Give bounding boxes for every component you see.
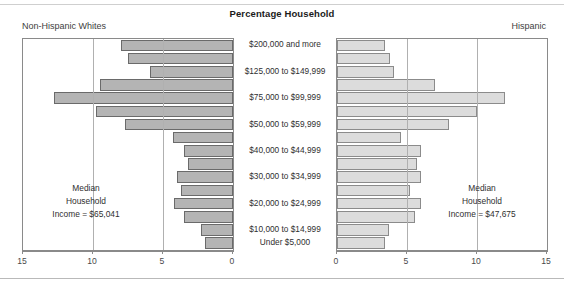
category-label: $125,000 to $149,999 — [234, 66, 336, 76]
bar-row — [337, 92, 547, 105]
gridline-5 — [163, 39, 164, 250]
right-median-line-2: Household — [430, 195, 534, 208]
bar-left-13[interactable] — [184, 211, 233, 223]
bar-row — [337, 118, 547, 131]
bar-left-5[interactable] — [96, 106, 233, 118]
category-label: $20,000 to $24,999 — [234, 198, 336, 208]
bar-row — [23, 65, 233, 78]
right-median-annotation: Median Household Income = $47,675 — [430, 182, 534, 221]
category-label: $50,000 to $59,999 — [234, 119, 336, 129]
right-axis-line — [336, 251, 548, 252]
axis-tick-label: 5 — [160, 256, 165, 266]
bar-row — [337, 52, 547, 65]
axis-tick — [162, 251, 163, 254]
axis-tick-label: 15 — [541, 256, 551, 266]
bar-right-14[interactable] — [337, 224, 389, 236]
left-median-line-3: Income = $65,041 — [38, 208, 134, 221]
bar-row — [23, 105, 233, 118]
bar-row — [337, 145, 547, 158]
bar-left-14[interactable] — [201, 224, 233, 236]
axis-tick — [336, 251, 337, 254]
axis-tick-label: 0 — [230, 256, 235, 266]
bar-row — [337, 224, 547, 237]
bar-left-3[interactable] — [100, 79, 233, 91]
left-median-line-2: Household — [38, 195, 134, 208]
bar-left-15[interactable] — [205, 237, 233, 249]
left-median-line-1: Median — [38, 182, 134, 195]
axis-tick-label: 10 — [471, 256, 481, 266]
bar-row — [23, 145, 233, 158]
bar-right-9[interactable] — [337, 158, 417, 170]
chart-page: Percentage Household Non-Hispanic Whites… — [0, 0, 564, 286]
axis-tick — [546, 251, 547, 254]
bar-left-7[interactable] — [173, 132, 233, 144]
axis-tick — [476, 251, 477, 254]
axis-tick-label: 0 — [334, 256, 339, 266]
bar-right-8[interactable] — [337, 145, 421, 157]
bar-row — [23, 158, 233, 171]
bar-row — [23, 52, 233, 65]
bar-row — [23, 118, 233, 131]
bar-left-8[interactable] — [184, 145, 233, 157]
category-label: $10,000 to $14,999 — [234, 224, 336, 234]
axis-tick — [232, 251, 233, 254]
bar-row — [23, 131, 233, 144]
bar-left-11[interactable] — [181, 185, 233, 197]
gridline-5 — [407, 39, 408, 250]
axis-tick-label: 15 — [17, 256, 27, 266]
right-x-axis: 051015 — [336, 251, 548, 275]
axis-tick — [22, 251, 23, 254]
category-label: Under $5,000 — [234, 237, 336, 247]
page-rule-top — [0, 4, 564, 5]
category-label: $30,000 to $34,999 — [234, 171, 336, 181]
page-title: Percentage Household — [0, 8, 564, 19]
axis-tick-label: 5 — [404, 256, 409, 266]
bar-left-10[interactable] — [177, 171, 233, 183]
bar-row — [337, 158, 547, 171]
bar-row — [23, 79, 233, 92]
page-rule-bottom — [0, 278, 564, 279]
axis-tick — [92, 251, 93, 254]
bar-row — [337, 65, 547, 78]
axis-tick-label: 10 — [87, 256, 97, 266]
bar-left-0[interactable] — [121, 40, 233, 52]
bar-left-12[interactable] — [174, 198, 233, 210]
bar-row — [337, 237, 547, 250]
axis-tick — [406, 251, 407, 254]
bar-right-3[interactable] — [337, 79, 435, 91]
bar-left-9[interactable] — [188, 158, 233, 170]
right-median-line-1: Median — [430, 182, 534, 195]
bar-row — [337, 79, 547, 92]
left-axis-line — [22, 251, 234, 252]
bar-row — [23, 92, 233, 105]
bar-left-4[interactable] — [54, 92, 233, 104]
bar-right-1[interactable] — [337, 53, 390, 65]
bar-right-2[interactable] — [337, 66, 394, 78]
category-label: $40,000 to $44,999 — [234, 145, 336, 155]
bar-row — [337, 131, 547, 144]
category-label: $200,000 and more — [234, 39, 336, 49]
bar-left-6[interactable] — [125, 119, 233, 131]
left-group-label: Non-Hispanic Whites — [22, 21, 106, 31]
bar-row — [23, 237, 233, 250]
bar-row — [23, 224, 233, 237]
category-label-column: $200,000 and more$125,000 to $149,999$75… — [234, 38, 336, 251]
bar-right-4[interactable] — [337, 92, 505, 104]
bar-row — [337, 39, 547, 52]
bar-right-7[interactable] — [337, 132, 401, 144]
bar-right-0[interactable] — [337, 40, 385, 52]
left-x-axis: 051015 — [22, 251, 234, 275]
left-median-annotation: Median Household Income = $65,041 — [38, 182, 134, 221]
category-label: $75,000 to $99,999 — [234, 92, 336, 102]
bar-row — [23, 39, 233, 52]
right-group-label: Hispanic — [511, 21, 546, 31]
bar-right-10[interactable] — [337, 171, 421, 183]
bar-right-13[interactable] — [337, 211, 415, 223]
bar-right-12[interactable] — [337, 198, 421, 210]
bar-right-15[interactable] — [337, 237, 385, 249]
right-median-line-3: Income = $47,675 — [430, 208, 534, 221]
bar-right-11[interactable] — [337, 185, 410, 197]
bar-row — [337, 105, 547, 118]
bar-right-6[interactable] — [337, 119, 449, 131]
bar-left-1[interactable] — [128, 53, 233, 65]
